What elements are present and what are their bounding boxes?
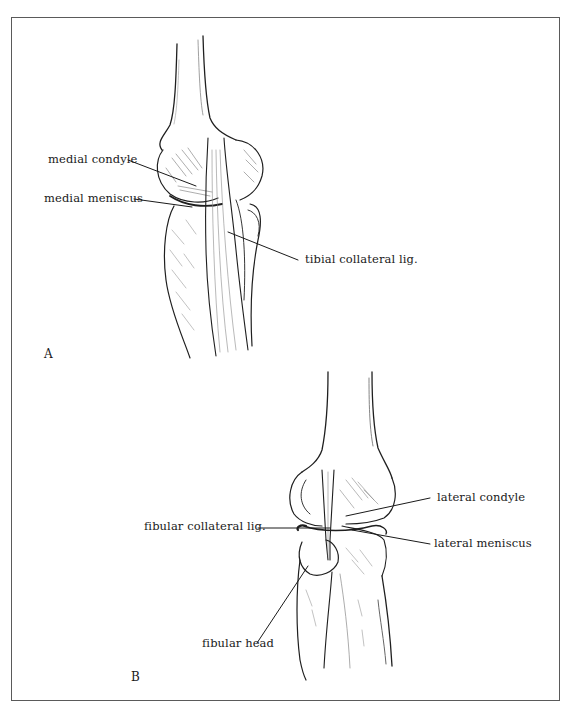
leader-fibular-head (257, 566, 308, 643)
label-tibial-collateral-lig: tibial collateral lig. (305, 253, 418, 266)
leader-lateral-condyle (346, 498, 430, 516)
panel-letter-a: A (44, 347, 53, 361)
label-lateral-condyle: lateral condyle (437, 491, 525, 504)
panel-b-drawing (290, 372, 395, 680)
leader-medial-condyle (128, 160, 196, 186)
leader-lateral-meniscus (352, 530, 430, 544)
leader-tibial-collateral-lig (228, 232, 298, 260)
label-lateral-meniscus: lateral meniscus (434, 537, 532, 550)
leader-lines (128, 160, 430, 643)
label-medial-meniscus: medial meniscus (44, 192, 143, 205)
knee-illustration (0, 0, 571, 714)
label-fibular-head: fibular head (202, 637, 274, 650)
panel-letter-b: B (131, 670, 140, 684)
panel-a-drawing (157, 36, 263, 358)
label-medial-condyle: medial condyle (48, 153, 137, 166)
label-fibular-collateral-lig: fibular collateral lig. (144, 520, 266, 533)
